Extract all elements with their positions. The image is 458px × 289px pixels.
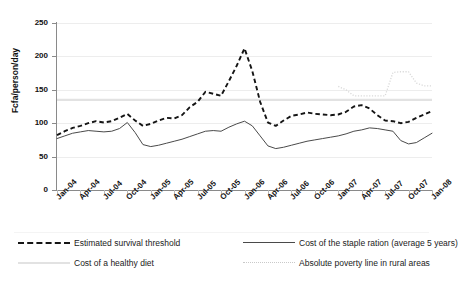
chart-legend: Estimated survival thresholdCost of the … bbox=[0, 238, 443, 280]
legend-label: Cost of the staple ration (average 5 yea… bbox=[299, 238, 458, 248]
legend-key-icon bbox=[243, 238, 295, 248]
series-line bbox=[57, 48, 432, 135]
legend-label: Absolute poverty line in rural areas bbox=[299, 258, 430, 268]
legend-divider bbox=[14, 232, 429, 233]
legend-key-icon bbox=[243, 258, 295, 268]
series-line bbox=[338, 72, 432, 96]
y-tick-label: 0 bbox=[22, 186, 48, 194]
y-tick-label: 100 bbox=[22, 119, 48, 127]
plot-area bbox=[57, 23, 432, 190]
legend-key-icon bbox=[18, 258, 70, 268]
y-tick-label: 200 bbox=[22, 52, 48, 60]
y-tick-label: 150 bbox=[22, 86, 48, 94]
y-axis-title: Fcfa/person/day bbox=[11, 35, 20, 127]
legend-key-icon bbox=[18, 238, 70, 248]
x-tick-label: Jan-08 bbox=[430, 178, 454, 202]
y-tick-label: 50 bbox=[22, 153, 48, 161]
series-line bbox=[57, 121, 432, 148]
y-tick-label: 250 bbox=[22, 19, 48, 27]
legend-label: Estimated survival threshold bbox=[74, 238, 180, 248]
legend-label: Cost of a healthy diet bbox=[74, 258, 154, 268]
series-lines bbox=[57, 23, 432, 190]
